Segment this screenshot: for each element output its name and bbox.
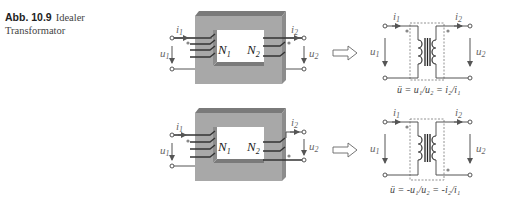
current-i1-label: i1 xyxy=(176,23,183,37)
svg-text:i2: i2 xyxy=(291,116,298,130)
voltage-u1-label: u1 xyxy=(160,47,170,61)
svg-text:i1: i1 xyxy=(176,120,183,134)
implies-arrow-icon xyxy=(333,46,357,60)
current-i2-label: i2 xyxy=(291,23,298,37)
voltage-u2-label: u2 xyxy=(309,47,319,61)
equation-bottom: ü = -u₁/u₂ = -i₂/i₁ xyxy=(390,184,460,195)
svg-text:u1: u1 xyxy=(160,144,170,158)
svg-text:u2: u2 xyxy=(309,140,319,154)
transformer-diagrams: i1 u1 i2 u2 N1 N2 xyxy=(0,0,512,204)
svg-text:u1: u1 xyxy=(370,45,380,59)
circuit-symbol-bottom: i1 i2 u1 u2 ü = -u₁/u₂ = -i₂/i₁ xyxy=(370,106,486,195)
equation-top: ü = u₁/u₂ = i₂/i₁ xyxy=(397,84,461,95)
svg-text:u2: u2 xyxy=(476,45,486,59)
svg-text:i1: i1 xyxy=(393,106,400,120)
circuit-symbol-top: i1 i2 u1 u2 ü = u₁/u₂ = i₂/i₁ xyxy=(370,10,486,95)
svg-text:i2: i2 xyxy=(455,106,462,120)
core-diagram-top: i1 u1 i2 u2 N1 N2 xyxy=(160,11,319,84)
svg-text:i1: i1 xyxy=(393,10,400,24)
implies-arrow-icon xyxy=(333,143,357,157)
svg-text:u1: u1 xyxy=(370,142,380,156)
core-diagram-bottom: i1 u1 i2 u2 N1 N2 xyxy=(160,108,319,181)
svg-text:u2: u2 xyxy=(476,142,486,156)
svg-text:i2: i2 xyxy=(455,10,462,24)
